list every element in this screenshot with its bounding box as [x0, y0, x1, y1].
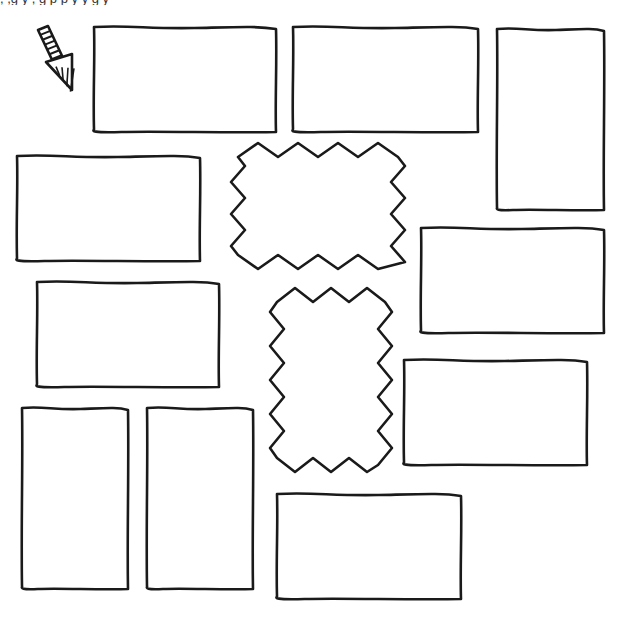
panel-4: [16, 155, 200, 261]
panel-6: [36, 281, 219, 387]
panel-9: [147, 407, 254, 589]
panel-10: [276, 493, 461, 599]
burst-1: [231, 143, 405, 269]
panel-1: [93, 26, 276, 132]
panel-5: [420, 227, 604, 333]
comic-template-canvas: [0, 0, 624, 620]
burst-2: [270, 288, 392, 472]
panel-7: [403, 359, 587, 465]
panel-3: [497, 28, 605, 210]
striped-arrow-icon: [38, 26, 74, 92]
starburst-panels: [231, 143, 405, 472]
panel-8: [22, 407, 129, 589]
panel-2: [292, 26, 478, 132]
